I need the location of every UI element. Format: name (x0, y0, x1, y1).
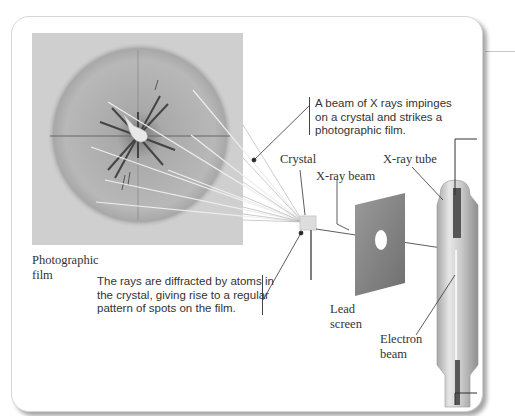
caption-diffraction: The rays are diffracted by atoms in the … (97, 275, 274, 316)
label-line: Lead (330, 302, 362, 317)
caption-line: on a crystal and strikes a (315, 111, 452, 125)
crystal-icon (300, 216, 316, 280)
caption-line: photographic film. (315, 124, 452, 138)
label-xray-beam: X-ray beam (316, 169, 375, 184)
caption-beam: A beam of X rays impinges on a crystal a… (315, 97, 452, 138)
diffraction-pattern (47, 42, 233, 228)
diagram-artwork (0, 0, 515, 416)
label-line: Photographic (32, 253, 99, 268)
caption-line: the crystal, giving rise to a regular (97, 289, 274, 303)
label-line: Electron (380, 332, 422, 347)
label-lead-screen: Lead screen (330, 302, 362, 332)
label-electron-beam: Electron beam (380, 332, 422, 362)
lead-screen-icon (355, 193, 405, 296)
label-line: film (32, 268, 99, 283)
caption-line: A beam of X rays impinges (315, 97, 452, 111)
label-line: screen (330, 317, 362, 332)
label-crystal: Crystal (280, 152, 316, 167)
callout-bar (309, 97, 310, 135)
caption-line: The rays are diffracted by atoms in (97, 275, 274, 289)
caption-line: pattern of spots on the film. (97, 302, 274, 316)
label-line: beam (380, 347, 422, 362)
label-xray-tube: X-ray tube (383, 152, 437, 167)
label-photographic-film: Photographic film (32, 253, 99, 283)
